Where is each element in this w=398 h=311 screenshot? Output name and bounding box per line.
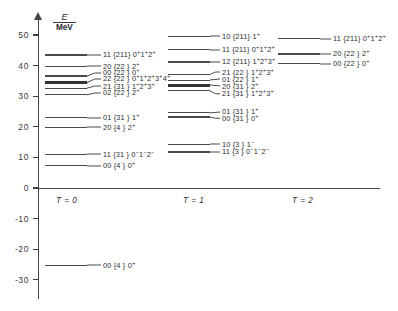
energy-level-line [45, 265, 87, 266]
energy-level-line [278, 38, 320, 39]
label-leader-line [87, 71, 101, 78]
energy-level-line [45, 54, 87, 55]
column-header-t1: T = 1 [183, 196, 204, 205]
energy-level-line [45, 66, 87, 67]
energy-level-diagram: E MeV 50403020100-10-20-30 11 {211} 0+1+… [0, 0, 398, 311]
energy-level-label: 11 {211} 0+1+2+ [222, 45, 275, 54]
energy-level-line [168, 74, 210, 75]
label-leader-line [87, 164, 101, 169]
y-axis-unit-label: E MeV [53, 13, 76, 33]
label-leader-line [87, 91, 101, 97]
energy-level-label: 11 {211} 0+1+2+ [333, 34, 386, 43]
y-axis-tick [33, 249, 38, 250]
label-leader-line [87, 53, 101, 58]
energy-level-label: 21 {31 } 1+2+3+ [222, 89, 274, 98]
y-axis-tick [33, 218, 38, 219]
y-axis-tick [33, 126, 38, 127]
energy-level-line [168, 90, 210, 91]
energy-level-label: 02 {22 } 2+ [103, 88, 140, 97]
label-leader-line [210, 83, 220, 88]
label-leader-line [210, 150, 220, 155]
label-leader-line [320, 37, 331, 42]
label-leader-line [87, 84, 101, 90]
label-leader-line [210, 110, 220, 115]
energy-level-line [278, 53, 320, 54]
energy-level-line [45, 165, 87, 166]
y-axis-unit-denominator: MeV [53, 22, 76, 33]
energy-level-line [45, 88, 87, 89]
y-axis-tick [33, 279, 38, 280]
energy-level-label: 12 {211} 1+2+3+ [222, 57, 275, 66]
label-leader-line [210, 70, 220, 76]
energy-level-label: 00 {4 } 0+ [103, 261, 135, 270]
label-leader-line [87, 263, 101, 268]
energy-level-label: 00 {22 } 0+ [333, 59, 370, 68]
energy-level-label: 00 {4 } 0+ [103, 161, 135, 170]
energy-level-line [168, 49, 210, 50]
energy-level-label: 11 {31 } 0−1−2− [103, 150, 154, 159]
y-axis-tick [33, 65, 38, 66]
x-axis-zero-line [38, 188, 380, 189]
energy-level-line [278, 63, 320, 64]
label-leader-line [320, 52, 331, 57]
y-axis-tick-label: 50 [3, 30, 29, 40]
energy-level-line [168, 144, 210, 145]
label-leader-line [210, 115, 220, 120]
label-leader-line [210, 77, 220, 82]
energy-level-label: 10 {211} 1+ [222, 32, 260, 41]
energy-level-line [45, 81, 87, 84]
label-leader-line [87, 64, 101, 69]
y-axis-unit-numerator: E [53, 13, 76, 22]
label-leader-line [87, 77, 101, 85]
label-leader-line [210, 60, 220, 65]
energy-level-line [168, 116, 210, 117]
energy-level-label: 20 {22 } 2+ [333, 49, 370, 58]
label-leader-line [87, 116, 101, 121]
y-axis-tick-label: -10 [3, 214, 29, 224]
y-axis-tick-label: -30 [3, 275, 29, 285]
energy-level-label: 00 {31 } 0+ [222, 114, 259, 123]
label-leader-line [210, 142, 220, 147]
energy-level-line [45, 154, 87, 155]
y-axis-tick-label: 0 [3, 183, 29, 193]
energy-level-label: 20 {4 } 2+ [103, 123, 135, 132]
y-axis-tick-label: 10 [3, 152, 29, 162]
energy-level-line [168, 36, 210, 37]
energy-level-line [45, 117, 87, 118]
energy-level-line [168, 151, 210, 152]
y-axis-tick-label: 30 [3, 91, 29, 101]
label-leader-line [210, 48, 220, 53]
energy-level-line [168, 61, 210, 62]
y-axis-tick-label: 40 [3, 61, 29, 71]
y-axis-tick-label: 20 [3, 122, 29, 132]
energy-level-line [45, 75, 87, 76]
label-leader-line [210, 34, 220, 39]
y-axis [38, 18, 39, 299]
column-header-t0: T = 0 [56, 196, 77, 205]
y-axis-tick [33, 157, 38, 158]
energy-level-line [168, 80, 210, 81]
label-leader-line [320, 62, 331, 67]
energy-level-line [45, 94, 87, 95]
label-leader-line [87, 125, 101, 130]
energy-level-label: 11 {3 } 0−1−2− [222, 147, 269, 156]
energy-level-line [168, 112, 210, 113]
column-header-t2: T = 2 [292, 196, 313, 205]
energy-level-line [168, 84, 210, 87]
energy-level-line [45, 127, 87, 128]
y-axis-tick [33, 187, 38, 188]
label-leader-line [210, 89, 220, 96]
y-axis-tick [33, 34, 38, 35]
y-axis-tick-label: -20 [3, 244, 29, 254]
y-axis-tick [33, 96, 38, 97]
energy-level-label: 11 {211} 0+1+2+ [103, 50, 156, 59]
label-leader-line [87, 152, 101, 157]
